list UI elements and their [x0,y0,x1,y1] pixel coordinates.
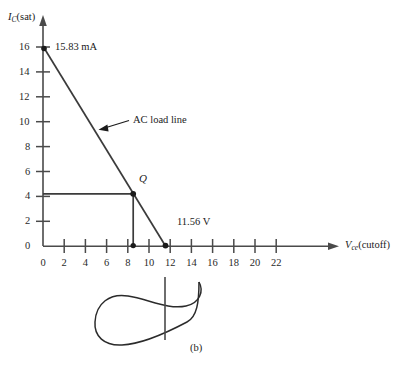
y-tick-label-16: 16 [19,42,30,53]
q-point-label: Q [139,173,147,184]
y-tick-label-10: 10 [19,116,30,127]
y-tick-label-6: 6 [25,166,30,177]
point-q [130,191,136,197]
ac-load-line-label: AC load line [133,115,187,126]
x-axis-title: Vce(cutoff) [345,240,390,251]
ic-sat-value-label: 15.83 mA [55,42,97,53]
y-tick-label-0: 0 [25,241,30,252]
y-axis-title: IC(sat) [8,12,35,23]
q-point-projection-lines [43,194,133,246]
panel-label: (b) [190,343,202,354]
x-tick-label-12: 12 [165,258,176,269]
y-tick-label-8: 8 [25,141,30,152]
point-vce-cutoff [163,243,169,249]
x-tick-label-6: 6 [104,258,109,269]
y-tick-label-2: 2 [25,216,30,227]
x-tick-label-0: 0 [40,258,45,269]
x-tick-label-2: 2 [62,258,67,269]
y-axis-title-symbol: I [8,11,12,22]
x-tick-label-10: 10 [144,258,155,269]
x-tick-label-8: 8 [125,258,130,269]
ac-load-line-arrow [99,121,130,132]
x-axis-title-suffix: (cutoff) [358,239,390,250]
y-axis-title-suffix: (sat) [17,11,36,22]
point-ic-sat [41,46,47,52]
ac-load-line [44,47,166,246]
x-tick-label-16: 16 [207,258,218,269]
y-tick-label-4: 4 [25,191,30,202]
x-tick-label-4: 4 [83,258,88,269]
x-tick-label-14: 14 [186,258,197,269]
x-tick-label-22: 22 [271,258,282,269]
point-q-x-projection [131,243,136,248]
inset-waveform [95,277,201,345]
x-tick-label-18: 18 [229,258,240,269]
y-axis-title-subscript: C [12,15,17,24]
y-tick-label-14: 14 [19,67,30,78]
y-tick-label-12: 12 [19,92,30,103]
ac-load-line-figure [0,0,398,365]
x-axis-title-subscript: ce [351,243,358,252]
vce-cutoff-value-label: 11.56 V [177,217,210,228]
x-tick-label-20: 20 [250,258,261,269]
